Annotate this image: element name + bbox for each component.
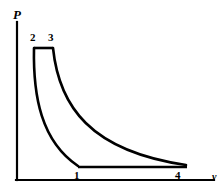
point-label-4: 4 [175,170,181,181]
x-axis-label: v [212,172,216,182]
y-axis-label: P [13,8,21,21]
pv-diagram: P v 2 3 1 4 [0,0,224,190]
point-label-3: 3 [48,32,54,43]
point-label-1: 1 [74,170,80,181]
curve-3-4 [53,48,186,165]
pv-diagram-canvas [0,0,224,190]
point-label-2: 2 [30,32,36,43]
